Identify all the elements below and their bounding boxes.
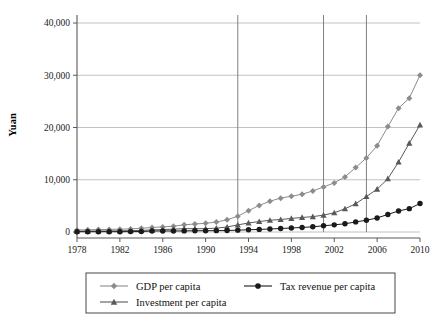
series-marker bbox=[74, 229, 79, 234]
series-marker bbox=[160, 228, 165, 233]
series-marker bbox=[278, 226, 283, 231]
x-tick-label: 1982 bbox=[110, 245, 129, 255]
series-marker bbox=[257, 227, 262, 232]
series-marker bbox=[385, 124, 391, 130]
series-marker bbox=[407, 206, 412, 211]
x-tick-label: 1994 bbox=[239, 245, 258, 255]
y-tick-label: 20,000 bbox=[44, 123, 70, 133]
series-marker bbox=[256, 202, 262, 208]
series-marker bbox=[246, 208, 252, 214]
legend-label: Investment per capita bbox=[136, 297, 227, 308]
y-tick-label: 40,000 bbox=[44, 18, 70, 28]
series-marker bbox=[171, 228, 176, 233]
x-tick-label: 2002 bbox=[325, 245, 344, 255]
chart-figure: 010,00020,00030,00040,000 19781982198619… bbox=[0, 0, 431, 323]
series-marker bbox=[128, 229, 133, 234]
chart-canvas: 010,00020,00030,00040,000 19781982198619… bbox=[0, 0, 431, 323]
series-marker bbox=[203, 220, 209, 226]
series-marker bbox=[224, 228, 229, 233]
series-marker bbox=[332, 222, 337, 227]
y-tick-label: 0 bbox=[65, 227, 70, 237]
series-marker bbox=[96, 229, 101, 234]
series-marker bbox=[85, 229, 90, 234]
series-marker bbox=[149, 228, 154, 233]
legend-entry[interactable]: GDP per capita bbox=[100, 281, 201, 292]
axes-group bbox=[77, 15, 420, 238]
x-tick-label: 1986 bbox=[153, 245, 172, 255]
legend-label: Tax revenue per capita bbox=[280, 281, 376, 292]
legend-marker-diamond bbox=[111, 283, 117, 289]
series-marker bbox=[342, 206, 348, 212]
series-marker bbox=[385, 212, 390, 217]
series-marker bbox=[396, 208, 401, 213]
series-marker bbox=[364, 218, 369, 223]
series-marker bbox=[235, 213, 241, 219]
series-marker bbox=[288, 193, 294, 199]
series-marker bbox=[321, 184, 327, 190]
series-marker bbox=[310, 188, 316, 194]
series-marker bbox=[321, 223, 326, 228]
data-series-group bbox=[74, 72, 423, 234]
chart-legend: GDP per capitaTax revenue per capitaInve… bbox=[86, 273, 395, 313]
y-tick-labels-group: 010,00020,00030,00040,000 bbox=[44, 18, 77, 237]
series-marker bbox=[299, 225, 304, 230]
series-marker bbox=[289, 225, 294, 230]
series-marker bbox=[353, 219, 358, 224]
series-marker bbox=[417, 122, 423, 128]
series-marker bbox=[331, 180, 337, 186]
series-gdp-per-capita bbox=[74, 72, 423, 233]
x-tick-label: 1998 bbox=[282, 245, 301, 255]
series-marker bbox=[299, 191, 305, 197]
x-tick-label: 1978 bbox=[68, 245, 87, 255]
series-marker bbox=[267, 198, 273, 204]
series-marker bbox=[353, 201, 359, 207]
series-line bbox=[77, 75, 420, 230]
series-marker bbox=[417, 72, 423, 78]
series-marker bbox=[417, 201, 422, 206]
x-tick-label: 2010 bbox=[411, 245, 430, 255]
legend-entry[interactable]: Tax revenue per capita bbox=[244, 281, 376, 292]
x-tick-label: 1990 bbox=[196, 245, 215, 255]
gridlines-group bbox=[77, 23, 420, 232]
series-marker bbox=[214, 228, 219, 233]
series-marker bbox=[117, 229, 122, 234]
legend-marker-circle bbox=[255, 283, 261, 289]
vertical-reference-lines-group bbox=[238, 15, 367, 232]
series-marker bbox=[246, 227, 251, 232]
y-tick-label: 10,000 bbox=[44, 175, 70, 185]
series-marker bbox=[395, 159, 401, 165]
x-tick-label: 2006 bbox=[368, 245, 387, 255]
series-marker bbox=[224, 217, 230, 223]
series-marker bbox=[203, 228, 208, 233]
y-axis-title: Yuan bbox=[7, 113, 18, 137]
x-tick-labels-group: 197819821986199019941998200220062010 bbox=[68, 238, 430, 255]
legend-border bbox=[86, 273, 395, 313]
series-marker bbox=[181, 228, 186, 233]
series-marker bbox=[278, 195, 284, 201]
series-investment-per-capita bbox=[74, 122, 423, 234]
series-marker bbox=[267, 226, 272, 231]
series-line bbox=[77, 125, 420, 231]
legend-entry[interactable]: Investment per capita bbox=[100, 297, 227, 308]
legend-label: GDP per capita bbox=[136, 281, 201, 292]
y-tick-label: 30,000 bbox=[44, 71, 70, 81]
series-marker bbox=[374, 215, 379, 220]
series-marker bbox=[310, 224, 315, 229]
series-marker bbox=[106, 229, 111, 234]
series-marker bbox=[342, 221, 347, 226]
series-marker bbox=[139, 229, 144, 234]
series-marker bbox=[406, 140, 412, 146]
series-marker bbox=[385, 176, 391, 182]
series-marker bbox=[363, 193, 369, 199]
series-marker bbox=[235, 227, 240, 232]
series-marker bbox=[213, 219, 219, 225]
series-marker bbox=[192, 228, 197, 233]
